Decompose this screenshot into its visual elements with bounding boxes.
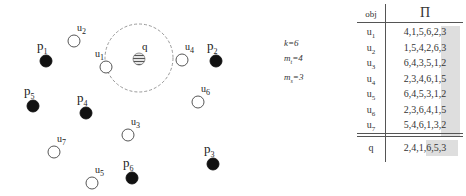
table-row-u3: u36,4,3,5,1,2 [357,57,463,73]
table-row-u6: u62,3,6,4,1,5 [357,104,463,120]
u-label-6: u6 [201,84,210,97]
table-header: obj Π [357,6,463,22]
row-perm: 6,4,5,3,1,2 [390,88,460,99]
p-label-4: p4 [77,91,88,108]
param-ms: ms=3 [284,70,303,89]
u-label-7: u7 [57,134,66,147]
p-label-2: p2 [207,39,218,56]
u-label-5: u5 [95,165,104,178]
table-row-u5: u56,4,5,3,1,2 [357,88,463,104]
u-point-1 [100,61,112,73]
row-obj: u5 [357,88,385,102]
u-point-6 [192,96,204,108]
double-rule-bottom [357,136,463,137]
row-obj: u7 [357,119,385,133]
row-perm: 4,1,5,6,2,3 [390,26,460,37]
p-point-3 [207,158,219,170]
row-obj: u4 [357,73,385,87]
row-obj: u3 [357,57,385,71]
u-label-4: u4 [185,42,194,55]
param-mt: mt=4 [284,51,303,70]
row-perm: 2,3,4,6,1,5 [390,73,460,84]
row-perm: 2,4,1,6,5,3 [390,142,460,153]
row-perm: 6,4,3,5,1,2 [390,57,460,68]
u-point-4 [176,54,188,66]
p-label-6: p6 [123,156,134,173]
query-point [133,53,145,65]
query-label: q [142,41,148,52]
row-obj: u2 [357,42,385,56]
table-row-u7: u75,4,6,1,3,2 [357,119,463,135]
p-label-3: p3 [204,142,215,159]
p-label-1: p1 [37,39,48,56]
table-row-u4: u42,3,4,6,1,5 [357,73,463,89]
header-pi: Π [390,5,460,21]
param-k: k=6 [284,36,303,51]
header-obj: obj [357,9,385,19]
row-obj: u1 [357,26,385,40]
parameters: k=6 mt=4 ms=3 [284,36,303,89]
row-perm: 1,5,4,2,6,3 [390,42,460,53]
header-rule [357,22,463,23]
p-point-6 [126,172,138,184]
table-row-q: q 2,4,1,6,5,3 [357,142,463,158]
u-label-1: u1 [95,49,104,62]
u-label-2: u2 [77,23,86,36]
row-obj: u6 [357,104,385,118]
row-obj: q [357,142,385,153]
p-point-2 [210,55,222,67]
row-perm: 5,4,6,1,3,2 [390,119,460,130]
row-perm: 2,3,6,4,1,5 [390,104,460,115]
table-row-u1: u14,1,5,6,2,3 [357,26,463,42]
u-point-5 [86,177,98,189]
table-row-u2: u21,5,4,2,6,3 [357,42,463,58]
u-point-3 [122,129,134,141]
p-point-1 [40,55,52,67]
p-point-4 [80,107,92,119]
p-label-5: p5 [24,84,35,101]
u-label-3: u3 [131,117,140,130]
p-point-5 [27,100,39,112]
u-point-7 [48,146,60,158]
u-point-2 [68,35,80,47]
